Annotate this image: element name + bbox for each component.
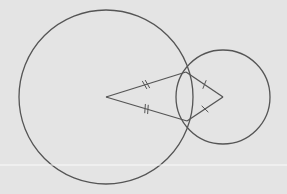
tick-mark <box>145 104 146 113</box>
segment-AD <box>106 97 187 121</box>
kite-circles-diagram <box>0 0 287 194</box>
segment-AB <box>106 72 186 97</box>
tick-mark <box>203 80 206 89</box>
tick-mark <box>148 105 149 114</box>
diagram-canvas <box>0 0 287 194</box>
